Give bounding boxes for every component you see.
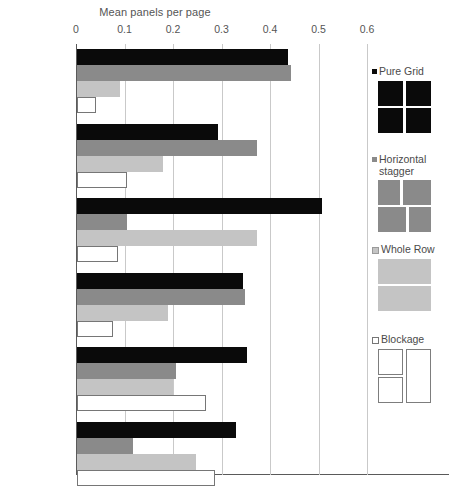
legend-panel bbox=[378, 207, 406, 232]
bar bbox=[77, 65, 291, 81]
legend-panel bbox=[406, 349, 431, 403]
bar bbox=[77, 470, 215, 486]
legend-label-text: Whole Row bbox=[381, 244, 435, 256]
bar bbox=[77, 124, 218, 140]
bar bbox=[77, 97, 96, 113]
bar bbox=[77, 140, 257, 156]
bar-group: Hong Kong bbox=[77, 422, 369, 486]
bar-group: USA Mainstream bbox=[77, 198, 369, 262]
legend-item[interactable]: Pure Grid bbox=[372, 66, 449, 133]
bar bbox=[77, 172, 127, 188]
legend-panel bbox=[403, 180, 431, 205]
bar-group: Swedish bbox=[77, 49, 369, 113]
legend-panel bbox=[378, 180, 400, 205]
bar bbox=[77, 395, 206, 411]
bar bbox=[77, 273, 243, 289]
legend-label-text: Pure Grid bbox=[379, 66, 424, 78]
x-tick-label: 0 bbox=[73, 23, 79, 35]
legend-item-label: Horizontal stagger bbox=[372, 154, 449, 177]
bar bbox=[77, 438, 133, 454]
bar bbox=[77, 379, 173, 395]
legend-item-label: Pure Grid bbox=[372, 66, 449, 78]
x-tick-label: 0.3 bbox=[214, 23, 229, 35]
bar-group: Japanese bbox=[77, 347, 369, 411]
legend-swatch-icon bbox=[372, 247, 379, 254]
legend-swatch-icon bbox=[372, 157, 377, 162]
legend-panel bbox=[378, 81, 403, 106]
legend-item[interactable]: Horizontal stagger bbox=[372, 154, 449, 232]
legend-panel bbox=[378, 259, 431, 284]
bar bbox=[77, 49, 288, 65]
legend-swatch-icon bbox=[372, 337, 379, 344]
bar bbox=[77, 363, 176, 379]
plot-area: 00.10.20.30.40.50.6SwedishFrenchUSA Main… bbox=[76, 44, 368, 475]
legend-panel bbox=[378, 286, 431, 311]
blockage-glyph bbox=[378, 349, 442, 405]
legend-swatch-icon bbox=[372, 69, 377, 74]
x-tick-label: 0.4 bbox=[263, 23, 278, 35]
legend-item-label: Whole Row bbox=[372, 244, 449, 256]
bar bbox=[77, 156, 163, 172]
legend-panel bbox=[409, 207, 431, 232]
bar bbox=[77, 289, 245, 305]
bar bbox=[77, 321, 113, 337]
bar bbox=[77, 422, 236, 438]
bar bbox=[77, 198, 322, 214]
legend-panel bbox=[378, 377, 403, 403]
bar bbox=[77, 347, 247, 363]
bar bbox=[77, 214, 127, 230]
chart-title: Mean panels per page bbox=[0, 6, 310, 18]
x-tick-label: 0.1 bbox=[117, 23, 132, 35]
legend-item[interactable]: Whole Row bbox=[372, 244, 449, 311]
legend-panel bbox=[378, 349, 403, 375]
bar bbox=[77, 246, 118, 262]
x-tick-label: 0.5 bbox=[311, 23, 326, 35]
legend-panel bbox=[406, 81, 431, 106]
legend-panel bbox=[378, 108, 403, 133]
horizontal-stagger-glyph bbox=[378, 180, 442, 232]
legend-panel bbox=[406, 108, 431, 133]
bar bbox=[77, 230, 257, 246]
x-tick-label: 0.2 bbox=[166, 23, 181, 35]
legend-label-text: Blockage bbox=[381, 334, 424, 346]
bar bbox=[77, 454, 196, 470]
bar-group: USA Indy bbox=[77, 273, 369, 337]
legend-label-text: Horizontal stagger bbox=[379, 154, 426, 177]
bar bbox=[77, 305, 168, 321]
bar bbox=[77, 81, 120, 97]
legend-item-label: Blockage bbox=[372, 334, 449, 346]
bar-group: French bbox=[77, 124, 369, 188]
chart-legend: Pure GridHorizontal staggerWhole RowBloc… bbox=[372, 44, 449, 475]
legend-item[interactable]: Blockage bbox=[372, 334, 449, 405]
whole-row-glyph bbox=[378, 259, 442, 311]
x-tick-label: 0.6 bbox=[360, 23, 375, 35]
pure-grid-glyph bbox=[378, 81, 442, 133]
